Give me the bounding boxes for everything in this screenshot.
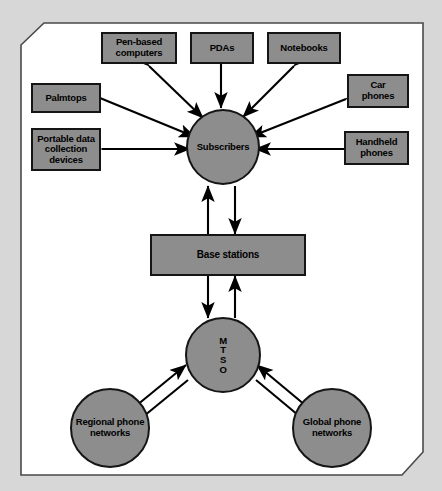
node-label-handheld-phones: Handheld phones <box>354 137 400 158</box>
node-label-global-phone-networks: Global phone networks <box>301 417 363 438</box>
node-notebooks[interactable]: Notebooks <box>267 32 341 64</box>
node-label-regional-phone-networks: Regional phone networks <box>74 417 146 438</box>
node-label-portable-data-collection-devices: Portable data collection devices <box>35 134 97 166</box>
node-palmtops[interactable]: Palmtops <box>31 83 101 113</box>
node-label-pen-based-computers: Pen-based computers <box>114 37 165 58</box>
node-label-mtso: M T S O <box>219 336 227 375</box>
node-base-stations[interactable]: Base stations <box>150 234 306 276</box>
mtso-letter-o: O <box>219 365 226 375</box>
diagram-canvas: Pen-based computers PDAs Notebooks Palmt… <box>0 0 442 491</box>
node-label-subscribers: Subscribers <box>195 142 252 153</box>
node-global-phone-networks[interactable]: Global phone networks <box>292 388 372 468</box>
node-subscribers[interactable]: Subscribers <box>186 109 260 185</box>
node-pdas[interactable]: PDAs <box>190 32 254 64</box>
node-label-base-stations: Base stations <box>195 249 261 260</box>
node-portable-data-collection-devices[interactable]: Portable data collection devices <box>31 128 101 171</box>
node-label-notebooks: Notebooks <box>278 43 329 54</box>
node-handheld-phones[interactable]: Handheld phones <box>344 131 409 165</box>
node-regional-phone-networks[interactable]: Regional phone networks <box>70 388 150 468</box>
node-pen-based-computers[interactable]: Pen-based computers <box>101 32 177 64</box>
node-mtso[interactable]: M T S O <box>185 317 261 393</box>
node-label-pdas: PDAs <box>208 43 237 54</box>
node-car-phones[interactable]: Car phones <box>347 74 409 108</box>
node-label-palmtops: Palmtops <box>43 93 88 104</box>
node-label-car-phones: Car phones <box>360 80 397 101</box>
